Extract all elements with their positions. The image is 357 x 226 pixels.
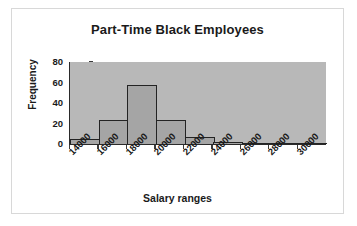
y-tick-label-20: 20 xyxy=(52,119,63,129)
y-tick-label-0: 0 xyxy=(58,139,63,149)
chart-title: Part-Time Black Employees xyxy=(12,22,343,37)
chart-frame: Part-Time Black Employees Frequency 0204… xyxy=(11,8,344,214)
y-axis-ticks: 020406080 xyxy=(34,55,67,151)
x-axis-title: Salary ranges xyxy=(12,192,343,204)
y-tick-label-40: 40 xyxy=(52,98,63,108)
y-tick-label-60: 60 xyxy=(52,78,63,88)
y-tick-label-80: 80 xyxy=(52,57,63,67)
x-axis-labels: 1400016000180002000022000240002600028000… xyxy=(69,150,325,190)
